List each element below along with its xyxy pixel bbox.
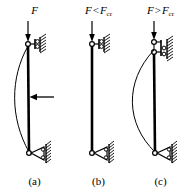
panel-c-drawing <box>128 0 193 191</box>
column-buckling-figure: F <box>0 0 196 191</box>
panel-c-deflected-shape <box>132 50 155 152</box>
panel-c-bottom-support <box>153 141 177 163</box>
panel-b: F<Fcr <box>66 0 131 191</box>
panel-a: F <box>2 0 67 191</box>
panel-b-load-arrow-icon <box>89 21 95 42</box>
panel-a-deflected-shape <box>15 46 29 152</box>
panel-c-column <box>154 54 155 152</box>
panel-a-drawing <box>2 0 67 191</box>
panel-a-bottom-support <box>27 141 51 163</box>
panel-a-load-arrow-icon <box>25 21 31 42</box>
panel-c-caption: (c) <box>128 175 193 187</box>
panel-a-lateral-force-arrow-icon <box>30 94 55 100</box>
panel-c: F>Fcr <box>128 0 193 191</box>
panel-a-caption: (a) <box>2 175 67 187</box>
panel-c-load-arrow-icon <box>151 21 157 40</box>
panel-b-drawing <box>66 0 131 191</box>
panel-b-caption: (b) <box>66 175 131 187</box>
panel-a-column <box>28 46 29 152</box>
